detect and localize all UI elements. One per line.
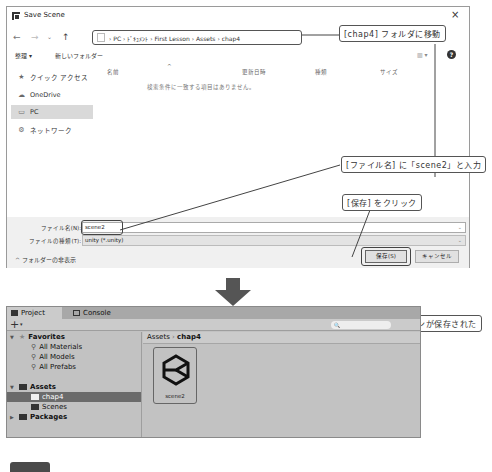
sidebar-item-network[interactable]: ⚙ ネットワーク	[17, 123, 72, 137]
save-scene-dialog: Save Scene × ← → ⌄ ↑ › PC › ﾄﾞｷｭﾒﾝﾄ › Fi…	[6, 6, 470, 268]
add-asset-button[interactable]: +	[10, 318, 19, 331]
folder-icon	[31, 394, 39, 400]
filetype-label: ファイルの種類(T):	[7, 237, 81, 245]
tree-label: Packages	[30, 413, 67, 421]
project-toolbar: + ▾ 🔍	[7, 319, 420, 331]
tree-all-models[interactable]: ⚲ All Models	[7, 352, 141, 362]
folder-icon	[31, 404, 39, 410]
unity-scene-icon	[161, 353, 191, 387]
callout-move-folder: [chap4] フォルダに移動	[339, 25, 446, 42]
forward-arrow-icon[interactable]: →	[31, 32, 39, 42]
chevron-down-icon[interactable]: ⌄	[458, 236, 462, 245]
tree-chap4[interactable]: chap4	[7, 392, 141, 402]
breadcrumb-chap4[interactable]: chap4	[177, 333, 201, 341]
help-icon[interactable]: ?	[447, 50, 456, 59]
expand-triangle-icon[interactable]: ▼	[10, 384, 16, 390]
sidebar-item-label: クイック アクセス	[30, 72, 88, 82]
tree-label: Scenes	[42, 403, 67, 411]
asset-name: scene2	[154, 393, 196, 399]
tab-strip: Project Console	[7, 307, 420, 319]
search-icon: ⚲	[31, 363, 36, 371]
asset-scene2[interactable]: scene2	[153, 347, 197, 404]
tree-label: All Prefabs	[39, 363, 76, 371]
empty-results-message: 検索条件に一致する項目はありません。	[147, 83, 255, 91]
title-bar: Save Scene ×	[7, 7, 469, 25]
tab-console[interactable]: Console	[69, 307, 115, 319]
tree-label: chap4	[42, 393, 63, 401]
tree-label: Assets	[30, 383, 56, 391]
folder-icon	[11, 310, 18, 316]
cloud-icon: ☁	[17, 91, 26, 99]
column-size[interactable]: サイズ	[380, 68, 398, 76]
column-name[interactable]: 名前	[107, 68, 119, 76]
project-tree: ▼ ★ Favorites ⚲ All Materials ⚲ All Mode…	[7, 332, 142, 437]
filename-input[interactable]: scene2 ⌄	[82, 222, 466, 233]
back-arrow-icon[interactable]: ←	[13, 32, 21, 42]
sidebar-item-label: PC	[30, 108, 38, 116]
hide-folders-toggle[interactable]: ^ フォルダーの非表示	[15, 255, 76, 264]
tab-label: Console	[83, 309, 111, 317]
column-type[interactable]: 種類	[315, 68, 327, 76]
address-path: › PC › ﾄﾞｷｭﾒﾝﾄ › First Lesson › Assets ›…	[109, 34, 240, 43]
sidebar-item-label: OneDrive	[30, 91, 61, 99]
folder-icon	[19, 384, 27, 390]
filetype-value: unity (*.unity)	[85, 237, 123, 243]
unity-app-icon	[12, 12, 20, 20]
sort-indicator-icon: ^	[167, 63, 172, 69]
sidebar-item-quick-access[interactable]: ★ クイック アクセス	[17, 70, 88, 84]
filetype-select[interactable]: unity (*.unity) ⌄	[82, 235, 466, 246]
sidebar-item-onedrive[interactable]: ☁ OneDrive	[17, 88, 61, 102]
tree-assets[interactable]: ▼ Assets	[7, 382, 141, 392]
chevron-down-icon[interactable]: ▾	[20, 321, 23, 327]
down-arrow-icon	[215, 278, 251, 306]
save-options-panel: ファイル名(N): scene2 ⌄ ファイルの種類(T): unity (*.…	[7, 217, 469, 268]
search-input[interactable]: 🔍	[331, 321, 391, 329]
up-arrow-icon[interactable]: ↑	[62, 32, 70, 42]
column-modified[interactable]: 更新日時	[242, 68, 266, 76]
expand-triangle-icon[interactable]: ▼	[10, 334, 16, 340]
console-icon	[73, 310, 80, 316]
tree-all-materials[interactable]: ⚲ All Materials	[7, 342, 141, 352]
network-icon: ⚙	[17, 126, 26, 134]
view-options-icon[interactable]: ▥ ▾	[417, 51, 428, 58]
new-folder-button[interactable]: 新しいフォルダー	[55, 51, 103, 60]
breadcrumb-assets[interactable]: Assets	[147, 333, 170, 341]
organize-menu[interactable]: 整理 ▾	[15, 51, 32, 60]
tree-all-prefabs[interactable]: ⚲ All Prefabs	[7, 362, 141, 372]
star-icon: ★	[19, 333, 25, 341]
sidebar-item-label: ネットワーク	[30, 125, 72, 135]
tree-label: Favorites	[28, 333, 65, 341]
tree-scenes[interactable]: Scenes	[7, 402, 141, 412]
recent-dropdown-icon[interactable]: ⌄	[47, 33, 52, 40]
address-bar[interactable]: › PC › ﾄﾞｷｭﾒﾝﾄ › First Lesson › Assets ›…	[92, 30, 302, 45]
tab-label: Project	[21, 309, 45, 317]
caption-tab	[10, 462, 50, 472]
callout-enter-filename: [ファイル名] に「scene2」と入力	[341, 156, 486, 173]
callout-click-save: [保存] をクリック	[342, 194, 422, 211]
save-button[interactable]: 保存(S)	[365, 250, 407, 263]
sidebar-item-pc[interactable]: ▭ PC	[11, 105, 93, 119]
chevron-down-icon[interactable]: ⌄	[458, 223, 462, 232]
breadcrumb-separator: ›	[172, 333, 175, 341]
filename-label: ファイル名(N):	[7, 224, 81, 232]
tree-favorites[interactable]: ▼ ★ Favorites	[7, 332, 141, 342]
pin-icon: ★	[17, 73, 26, 81]
collapsed-triangle-icon[interactable]: ▶	[10, 414, 16, 420]
folder-icon	[19, 414, 27, 420]
search-icon: ⚲	[31, 343, 36, 351]
unity-project-window: Project Console + ▾ 🔍 ▼ ★ Favorites ⚲ Al…	[6, 306, 421, 438]
tree-packages[interactable]: ▶ Packages	[7, 412, 141, 422]
tree-label: All Materials	[39, 343, 82, 351]
filename-highlight-box	[81, 220, 123, 235]
dialog-toolbar: 整理 ▾ 新しいフォルダー ▥ ▾ ?	[7, 49, 469, 63]
breadcrumb: Assets › chap4	[143, 332, 420, 344]
search-icon: ⚲	[31, 353, 36, 361]
folder-icon	[97, 33, 105, 42]
dialog-title: Save Scene	[24, 11, 65, 19]
tree-label: All Models	[39, 353, 75, 361]
computer-icon: ▭	[17, 108, 26, 116]
cancel-button[interactable]: キャンセル	[415, 250, 459, 263]
close-icon[interactable]: ×	[451, 9, 459, 20]
